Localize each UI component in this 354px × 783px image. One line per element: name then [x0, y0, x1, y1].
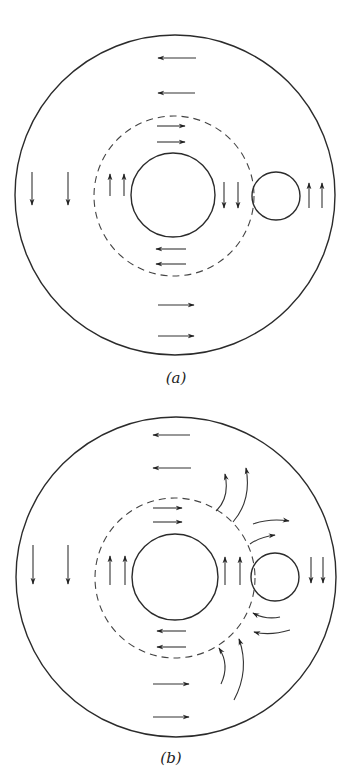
- panel-a: (a): [15, 35, 335, 387]
- inner-conductor-circle: [132, 534, 218, 620]
- outer-boundary-circle: [15, 35, 335, 355]
- small-conductor-circle: [251, 553, 299, 601]
- curved-flow-arrow-icon: [216, 474, 226, 511]
- magnetic-flow-diagram: (a) (b): [0, 0, 354, 783]
- curved-flow-arrow-icon: [254, 630, 290, 634]
- panel-label: (b): [160, 749, 181, 767]
- curved-flow-arrow-icon: [250, 535, 275, 544]
- panel-label: (a): [166, 369, 187, 387]
- panel-b: (b): [16, 417, 336, 767]
- outer-boundary-circle: [16, 417, 336, 737]
- inner-conductor-circle: [131, 153, 215, 237]
- small-conductor-circle: [252, 172, 300, 220]
- curved-flow-arrow-icon: [219, 648, 225, 684]
- curved-flow-arrow-icon: [234, 639, 243, 700]
- curved-flow-arrow-icon: [253, 520, 289, 524]
- curved-flow-arrow-icon: [253, 613, 280, 618]
- dashed-boundary-circle: [94, 116, 254, 276]
- curved-flow-arrow-icon: [233, 468, 247, 522]
